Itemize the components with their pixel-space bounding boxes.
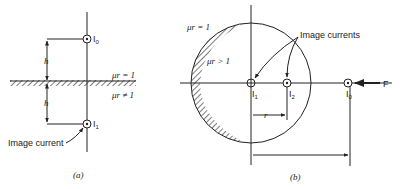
panel-b-caption: (b) [290, 172, 301, 182]
image-currents-annotation: Image currents [300, 30, 360, 40]
radius-label: r [264, 110, 268, 120]
image-current-annotation: Image current [8, 138, 64, 148]
panel-b [180, 5, 392, 166]
force-label: F [383, 79, 389, 89]
current-i0-label-b: I0 [346, 89, 352, 102]
current-i1-label-a: I1 [93, 119, 99, 132]
current-i1-label-b: I1 [252, 89, 258, 102]
panel-a [10, 12, 136, 152]
medium-upper-label: μr = 1 [112, 70, 135, 80]
inner-medium-label: μr > 1 [207, 56, 230, 66]
current-i0-label-a: I0 [93, 34, 99, 47]
distance-h-lower: h [44, 98, 49, 108]
outer-medium-label: μr = 1 [187, 22, 210, 32]
current-i2-label-b: I2 [289, 89, 295, 102]
distance-h-upper: h [44, 56, 49, 66]
medium-lower-label: μr ≠ 1 [112, 90, 134, 100]
panel-a-caption: (a) [73, 170, 84, 180]
